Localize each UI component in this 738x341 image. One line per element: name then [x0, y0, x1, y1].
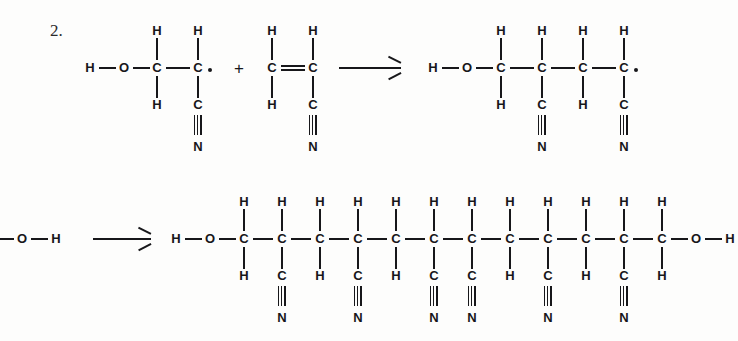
- bond-chain-c8-h-top: [509, 209, 511, 231]
- atom-chain-c4: C: [350, 232, 366, 245]
- atom-chain-c11: C: [616, 232, 632, 245]
- bond-p-c1-h-top: [500, 38, 502, 60]
- atom-chain-right-o: O: [688, 232, 704, 245]
- atom-chain-c11-sub: C: [616, 269, 632, 282]
- bond-m-c2-cn: [312, 76, 314, 98]
- atom-chain-left-h: H: [168, 232, 184, 245]
- atom-chain-c2-cn-nitrogen: N: [274, 311, 290, 324]
- bond-chain-c2-c3: [291, 238, 311, 240]
- bond-chain-c3-c4: [329, 238, 349, 240]
- bond-c1-c2: [166, 67, 190, 69]
- triple-bond-chain-c7-cn: [468, 286, 477, 306]
- bond-chain-c7-h-top: [471, 209, 473, 231]
- bond-chain-c11-c12: [633, 238, 653, 240]
- atom-c2-h-top: H: [190, 24, 206, 37]
- atom-chain-c8-h-top: H: [502, 195, 518, 208]
- atom-p-c3-h-top: H: [575, 24, 591, 37]
- bond-chain-c1-sub: [243, 247, 245, 269]
- atom-c1-h-top: H: [149, 24, 165, 37]
- atom-chain-c9: C: [540, 232, 556, 245]
- bond-chain-c4-c5: [367, 238, 387, 240]
- atom-m-c2-h-top: H: [305, 24, 321, 37]
- bond-m-c2-h-top: [312, 38, 314, 60]
- step-number-label: 2.: [50, 22, 63, 39]
- atom-chain-c10: C: [578, 232, 594, 245]
- triple-bond-chain-c11-cn: [620, 286, 629, 306]
- double-bond-c1-c2: [281, 65, 305, 71]
- bond-chain-c9-sub: [547, 247, 549, 269]
- bond-p-c3-h-bottom: [582, 76, 584, 98]
- atom-chain-c3: C: [312, 232, 328, 245]
- atom-p-c2-h-top: H: [534, 24, 550, 37]
- bond-chain-c1-c2: [253, 238, 273, 240]
- bond-p-c3-c4: [592, 67, 616, 69]
- atom-c2-cn-nitrogen: N: [190, 140, 206, 153]
- atom-chain-c7-h-top: H: [464, 195, 480, 208]
- atom-m-c1-h-bottom: H: [264, 98, 280, 111]
- bond-chain-c2-h-top: [281, 209, 283, 231]
- atom-o: O: [116, 61, 132, 74]
- bond-p-c1-c2: [510, 67, 534, 69]
- atom-chain-c4-h-top: H: [350, 195, 366, 208]
- atom-chain-right-h: H: [722, 232, 738, 245]
- atom-chain-c7: C: [464, 232, 480, 245]
- bond-c2-cn: [197, 76, 199, 98]
- triple-bond-m-cn: [309, 115, 318, 135]
- atom-frag-h: H: [48, 232, 64, 245]
- atom-p-c1: C: [493, 61, 509, 74]
- atom-c2-cn-carbon: C: [190, 98, 206, 111]
- atom-chain-c3-sub: H: [312, 269, 328, 282]
- bond-chain-c6-c7: [443, 238, 463, 240]
- atom-chain-c1: C: [236, 232, 252, 245]
- bond-p-c1-h-bottom: [500, 76, 502, 98]
- atom-m-cn-nitrogen: N: [305, 140, 321, 153]
- atom-chain-c10-sub: H: [578, 269, 594, 282]
- bond-chain-c11-sub: [623, 247, 625, 269]
- atom-chain-c2-sub: C: [274, 269, 290, 282]
- radical-dot-product: [634, 68, 638, 72]
- atom-chain-c11-h-top: H: [616, 195, 632, 208]
- triple-bond-p-c4-cn: [620, 115, 629, 135]
- atom-chain-c6-cn-nitrogen: N: [426, 311, 442, 324]
- bond-p-c2-h-top: [541, 38, 543, 60]
- bond-p-h-o: [442, 67, 459, 69]
- bond-c2-h-top: [197, 38, 199, 60]
- bond-chain-c9-c10: [557, 238, 577, 240]
- bond-chain-c6-h-top: [433, 209, 435, 231]
- bond-chain-c5-c6: [405, 238, 425, 240]
- atom-p-c1-h-top: H: [493, 24, 509, 37]
- atom-chain-c6-h-top: H: [426, 195, 442, 208]
- triple-bond-cn: [194, 115, 203, 135]
- bond-chain-c10-c11: [595, 238, 615, 240]
- atom-chain-c5: C: [388, 232, 404, 245]
- bond-chain-c7-c8: [481, 238, 501, 240]
- triple-bond-chain-c4-cn: [354, 286, 363, 306]
- atom-chain-c12-sub: H: [654, 269, 670, 282]
- atom-p-c2-cn-nitrogen: N: [534, 140, 550, 153]
- bond-c1-h-top: [156, 38, 158, 60]
- atom-c1-h-bottom: H: [149, 98, 165, 111]
- reaction-arrow-bottom: [93, 228, 151, 250]
- bond-p-c4-cn: [623, 76, 625, 98]
- atom-m-c1-h-top: H: [264, 24, 280, 37]
- bond-h-o: [99, 67, 116, 69]
- atom-m-c2: C: [305, 61, 321, 74]
- bond-chain-c10-sub: [585, 247, 587, 269]
- bond-c1-h-bottom: [156, 76, 158, 98]
- bond-p-c4-h-top: [623, 38, 625, 60]
- bond-chain-c7-sub: [471, 247, 473, 269]
- bond-o-c1: [133, 67, 150, 69]
- plus-operator: +: [234, 60, 244, 77]
- atom-frag-o: O: [14, 232, 30, 245]
- atom-p-o: O: [459, 61, 475, 74]
- bond-chain-clast-o: [671, 238, 688, 240]
- atom-chain-c4-sub: C: [350, 269, 366, 282]
- atom-c1: C: [149, 61, 165, 74]
- bond-chain-c5-h-top: [395, 209, 397, 231]
- atom-chain-left-o: O: [202, 232, 218, 245]
- bond-p-c2-cn: [541, 76, 543, 98]
- atom-m-c1: C: [264, 61, 280, 74]
- atom-p-c3-h-bottom: H: [575, 98, 591, 111]
- bond-chain-c9-h-top: [547, 209, 549, 231]
